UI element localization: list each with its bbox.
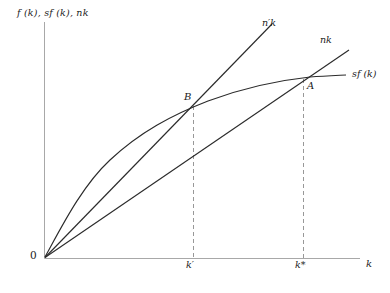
- x-tick-label-k-prime: k′: [186, 260, 194, 270]
- curve-label-sfk: sf (k): [352, 69, 377, 79]
- point-label-a: A: [307, 81, 314, 91]
- x-tick-label-k-star: k*: [295, 260, 306, 270]
- solow-growth-diagram: f (k), sf (k), nk k 0 n′k nk sf (k) B A …: [0, 0, 390, 293]
- curve-label-nk: nk: [320, 35, 332, 45]
- y-axis-label: f (k), sf (k), nk: [17, 8, 89, 18]
- x-axis-label: k: [366, 259, 372, 269]
- point-label-b: B: [184, 92, 191, 102]
- origin-label: 0: [30, 250, 37, 261]
- line-n-prime-k: [45, 24, 272, 258]
- curve-label-n-prime-k: n′k: [262, 18, 276, 28]
